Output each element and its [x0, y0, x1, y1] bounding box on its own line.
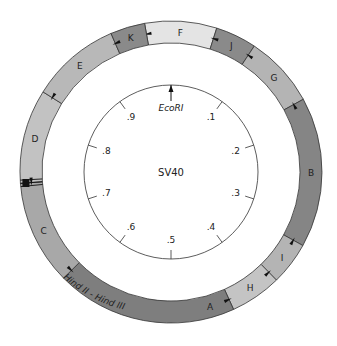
sv40-restriction-map: FJGBIHACDEK .1.2.3.4.5.6.7.8.9 SV40 EcoR… [0, 0, 337, 346]
map-tick-label: .3 [231, 188, 240, 198]
map-tick [88, 145, 97, 148]
ecori-site: EcoRI [158, 85, 183, 113]
fragment-d [20, 92, 62, 183]
map-tick [245, 196, 254, 199]
map-tick-label: .5 [167, 235, 176, 245]
fragment-label-j: J [229, 41, 233, 51]
fragment-label-g: G [270, 73, 277, 83]
map-tick [217, 102, 222, 109]
map-tick [217, 235, 222, 242]
map-tick [120, 235, 125, 242]
ecori-label: EcoRI [158, 103, 183, 113]
map-tick-label: .6 [127, 222, 136, 232]
fragment-label-d: D [32, 134, 39, 144]
map-unit-ticks: .1.2.3.4.5.6.7.8.9 [88, 102, 253, 259]
map-tick-label: .7 [102, 188, 111, 198]
fragment-b [284, 99, 322, 245]
fragment-label-i: I [281, 253, 284, 263]
map-tick [120, 102, 125, 109]
fragment-label-c: C [40, 226, 46, 236]
map-tick-label: .9 [127, 112, 136, 122]
fragment-label-f: F [178, 28, 183, 38]
fragment-label-h: H [247, 283, 254, 293]
map-tick-label: .1 [207, 112, 216, 122]
fragment-label-b: B [308, 168, 314, 178]
map-tick-label: .4 [207, 222, 216, 232]
fragment-label-e: E [77, 61, 83, 71]
fragment-c [20, 182, 79, 278]
map-tick [88, 196, 97, 199]
ecori-arrow-icon [169, 85, 174, 92]
plasmid-title: SV40 [158, 167, 184, 178]
map-tick-label: .8 [102, 146, 111, 156]
fragment-label-a: A [207, 302, 214, 312]
map-tick [245, 145, 254, 148]
map-tick-label: .2 [231, 146, 240, 156]
